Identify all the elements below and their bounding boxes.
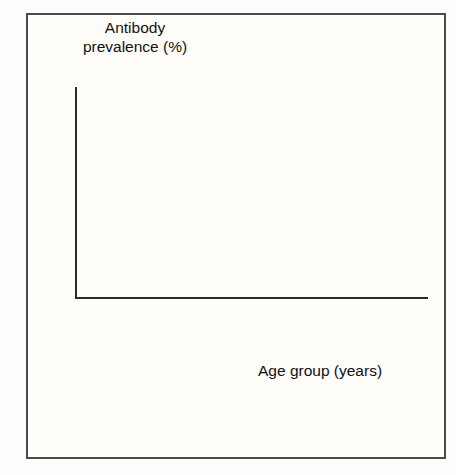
x-axis-line — [75, 297, 428, 299]
bars-container — [76, 88, 427, 298]
y-axis-line — [75, 87, 77, 299]
y-axis-title: Antibody prevalence (%) — [40, 18, 230, 56]
x-axis-title: Age group (years) — [258, 362, 382, 380]
plot-area — [76, 88, 427, 298]
figure-panel: Antibody prevalence (%) Age group (years… — [0, 0, 456, 475]
